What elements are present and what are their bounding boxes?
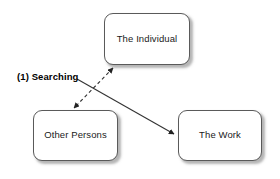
edge-label-searching: (1) Searching: [17, 71, 78, 82]
node-the-work[interactable]: The Work: [178, 110, 262, 161]
node-other-persons[interactable]: Other Persons: [33, 110, 118, 161]
node-the-individual-label: The Individual: [117, 34, 178, 44]
diagram-canvas: The Individual Other Persons The Work (1…: [0, 0, 280, 179]
edge-individual-other-persons: [74, 68, 113, 108]
node-other-persons-label: Other Persons: [44, 130, 107, 140]
node-the-work-label: The Work: [199, 130, 241, 140]
node-the-individual[interactable]: The Individual: [104, 13, 190, 65]
